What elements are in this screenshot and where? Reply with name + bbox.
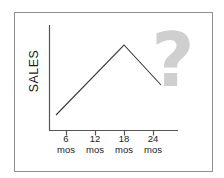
x-tick-number-24: 24	[133, 134, 173, 145]
x-tick-unit-24: mos	[133, 145, 173, 156]
sales-data-line	[56, 45, 161, 115]
question-mark-annotation: ?	[150, 22, 196, 98]
chart-figure: SALES 6 mos 12 mos 18 mos 24 mos ?	[0, 0, 224, 178]
x-tick-label-24: 24 mos	[133, 134, 173, 155]
y-axis-label: SALES	[27, 33, 41, 109]
